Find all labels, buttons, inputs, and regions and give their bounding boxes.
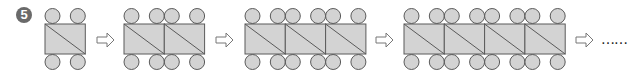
arrow-right-icon	[376, 33, 393, 47]
chair-circle-top	[429, 9, 444, 24]
table-figure-1	[45, 9, 85, 70]
chair-circle-top	[470, 9, 485, 24]
chair-circle-bottom	[470, 55, 485, 70]
pattern-diagram: ……	[0, 0, 642, 80]
continuation-ellipsis: ……	[601, 31, 627, 47]
arrow-right-icon	[97, 33, 114, 47]
chair-circle-top	[404, 9, 419, 24]
chair-circle-top	[124, 9, 139, 24]
arrow-right-icon	[216, 33, 233, 47]
table-figure-4	[404, 9, 565, 70]
chair-circle-top	[351, 9, 366, 24]
chair-circle-top	[550, 9, 565, 24]
chair-circle-top	[326, 9, 341, 24]
chair-circle-bottom	[164, 55, 179, 70]
chair-circle-top	[45, 9, 60, 24]
chair-circle-bottom	[550, 55, 565, 70]
chair-circle-top	[510, 9, 525, 24]
chair-circle-top	[485, 9, 500, 24]
chair-circle-bottom	[245, 55, 260, 70]
chair-circle-top	[285, 9, 300, 24]
chair-circle-bottom	[326, 55, 341, 70]
chair-circle-bottom	[444, 55, 459, 70]
chair-circle-bottom	[270, 55, 285, 70]
arrow-right-icon	[576, 33, 593, 47]
chair-circle-bottom	[70, 55, 85, 70]
chair-circle-top	[245, 9, 260, 24]
chair-circle-bottom	[351, 55, 366, 70]
table-figure-2	[124, 9, 205, 70]
chair-circle-top	[525, 9, 540, 24]
chair-circle-top	[311, 9, 326, 24]
chair-circle-bottom	[510, 55, 525, 70]
chair-circle-bottom	[149, 55, 164, 70]
chair-circle-bottom	[404, 55, 419, 70]
chair-circle-top	[190, 9, 205, 24]
chair-circle-bottom	[525, 55, 540, 70]
chair-circle-bottom	[311, 55, 326, 70]
chair-circle-bottom	[429, 55, 444, 70]
chair-circle-top	[444, 9, 459, 24]
chair-circle-bottom	[45, 55, 60, 70]
table-figure-3	[245, 9, 366, 70]
chair-circle-bottom	[485, 55, 500, 70]
chair-circle-top	[164, 9, 179, 24]
chair-circle-top	[149, 9, 164, 24]
chair-circle-bottom	[124, 55, 139, 70]
chair-circle-bottom	[190, 55, 205, 70]
chair-circle-top	[270, 9, 285, 24]
chair-circle-top	[70, 9, 85, 24]
chair-circle-bottom	[285, 55, 300, 70]
